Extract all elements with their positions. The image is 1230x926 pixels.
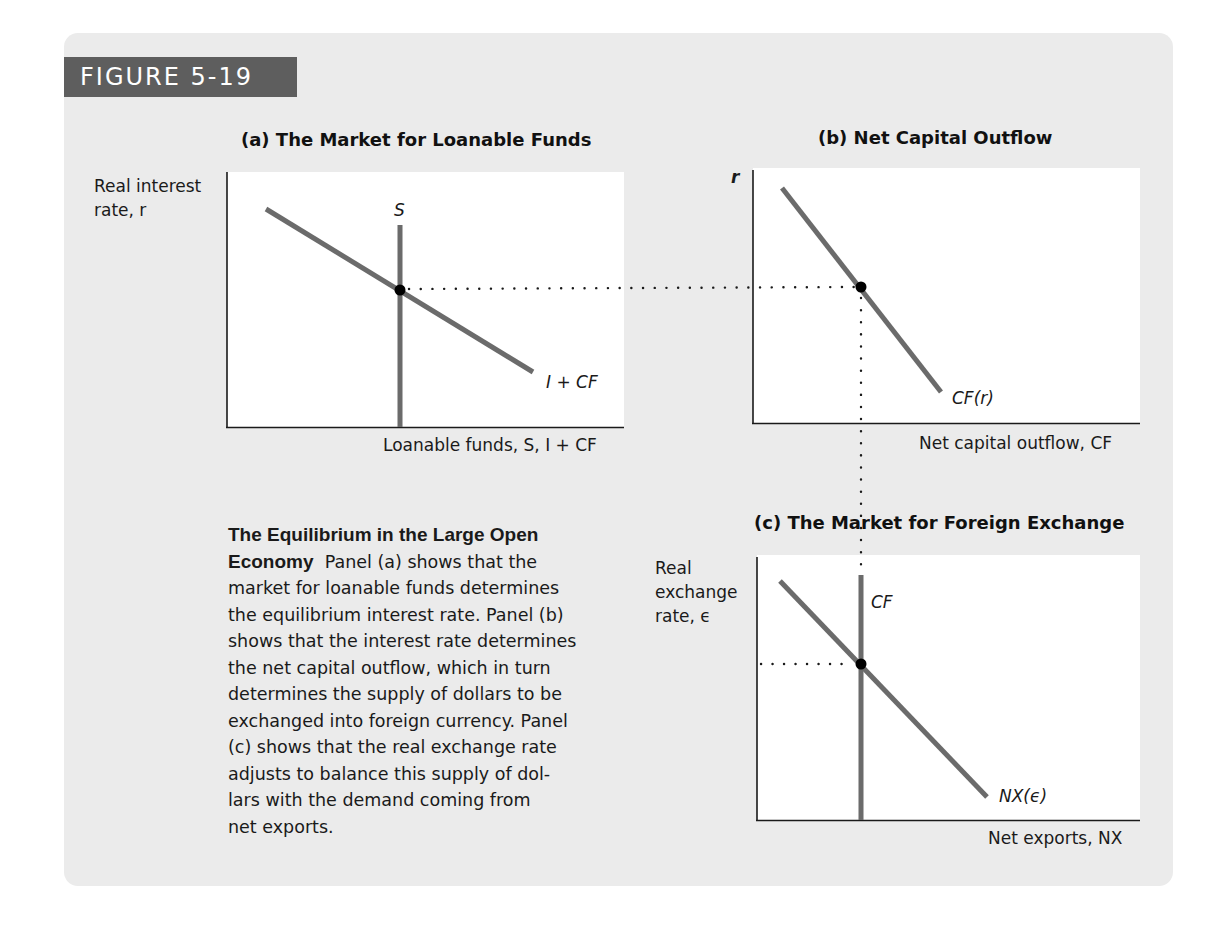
panel-c-axes (756, 557, 1140, 821)
figure-caption: The Equilibrium in the Large Open Econom… (228, 522, 648, 840)
nx-demand-curve (780, 581, 987, 797)
label-i-plus-cf: I + CF (546, 372, 598, 392)
panel-b-axes (752, 170, 1140, 424)
equilibrium-point-c (856, 659, 867, 670)
label-s: S (394, 200, 405, 220)
caption-title: The Equilibrium in the Large Open (228, 524, 538, 545)
label-cf: CF (871, 592, 893, 612)
label-nx: NX(ϵ) (999, 786, 1047, 806)
label-cf-r: CF(r) (952, 388, 994, 408)
equilibrium-point-b (856, 282, 867, 293)
equilibrium-point-a (395, 285, 406, 296)
dotted-interest-rate-line (409, 287, 854, 289)
